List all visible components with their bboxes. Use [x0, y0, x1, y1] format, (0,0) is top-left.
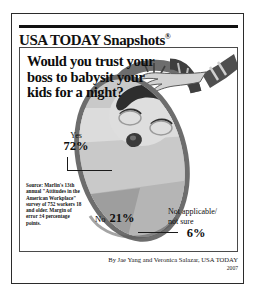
sleeve — [202, 54, 238, 88]
label-not-applicable: Not applicable/ not sure 6% — [168, 207, 236, 240]
baby-mouth-highlight — [130, 136, 136, 141]
label-yes-value: 72% — [56, 140, 96, 153]
snapshot-infographic: USA TODAY Snapshots® — [0, 0, 257, 296]
label-no: No 21% — [95, 208, 134, 226]
byline-year: 2007 — [60, 264, 238, 272]
byline-credit: By Jae Yang and Veronica Salazar, USA TO… — [108, 256, 238, 263]
masthead-rule — [19, 25, 238, 28]
content-panel: Would you trust your boss to babysit you… — [19, 47, 238, 252]
label-no-word: No — [95, 214, 105, 224]
headline: Would you trust your boss to babysit you… — [27, 54, 169, 101]
label-na-line1: Not applicable/ — [168, 207, 236, 217]
byline: By Jae Yang and Veronica Salazar, USA TO… — [60, 256, 238, 272]
leader-line-yes-horizontal — [67, 170, 112, 171]
label-yes: Yes 72% — [56, 131, 96, 153]
registered-mark-icon: ® — [165, 32, 171, 41]
masthead-title: USA TODAY Snapshots® — [19, 29, 239, 45]
label-no-value: 21% — [109, 211, 134, 225]
source-note: Source: Marlin's 13th annual "Attitudes … — [26, 182, 83, 226]
masthead-title-text: USA TODAY Snapshots — [19, 32, 165, 48]
label-na-line2: not sure — [168, 217, 236, 227]
leader-line-na — [138, 232, 178, 233]
label-na-value: 6% — [168, 226, 224, 240]
leader-line-yes-vertical — [67, 157, 68, 171]
